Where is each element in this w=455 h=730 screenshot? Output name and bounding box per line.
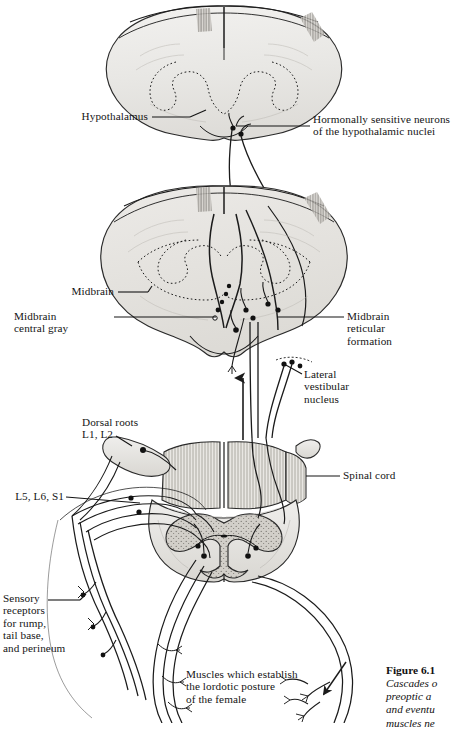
- label-dorsal-roots: Dorsal roots L1, L2: [82, 416, 192, 441]
- label-lordosis-muscles: Muscles which establish the lordotic pos…: [186, 668, 336, 705]
- caption-line-1: Cascades o: [386, 677, 455, 690]
- caption-line-2: preoptic a: [386, 690, 455, 703]
- label-hypothalamus: Hypothalamus: [0, 110, 148, 122]
- label-sensory-receptors: Sensory receptors for rump, tail base, a…: [3, 592, 89, 654]
- label-lumbosacral-roots: L5, L6, S1: [0, 490, 64, 502]
- caption-line-3: and eventu: [386, 703, 455, 716]
- label-midbrain-central-gray: Midbrain central gray: [14, 310, 114, 335]
- caption-number: Figure 6.1: [386, 664, 455, 677]
- label-lateral-vestibular-nucleus: Lateral vestibular nucleus: [304, 368, 394, 405]
- spinal-cord-section: [149, 438, 320, 582]
- label-hormonal-neurons: Hormonally sensitive neurons of the hypo…: [313, 113, 449, 138]
- figure-caption: Figure 6.1 Cascades o preoptic a and eve…: [386, 664, 455, 730]
- midbrain-section: [101, 186, 348, 357]
- caption-line-4: muscles ne: [386, 717, 455, 730]
- label-midbrain: Midbrain: [0, 285, 114, 297]
- label-spinal-cord: Spinal cord: [343, 469, 439, 481]
- label-midbrain-reticular-formation: Midbrain reticular formation: [347, 310, 445, 347]
